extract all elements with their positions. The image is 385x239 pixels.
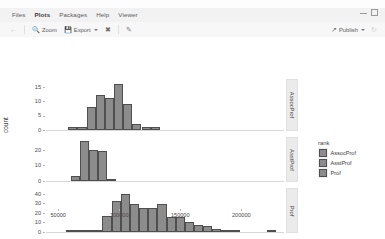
y-axis-tick-label: 5 — [38, 112, 41, 118]
legend-swatch — [319, 149, 327, 157]
legend: rank AssocProfAsstProfProf — [318, 140, 378, 178]
plots-toolbar: ← 🔍 Zoom 💾 Export ✖ ✎ ↗ Publish — [0, 22, 385, 38]
tab-help[interactable]: Help — [96, 9, 109, 21]
facet-strip-label: AsstProf — [289, 149, 295, 171]
y-axis-tick-mark — [43, 130, 45, 131]
panel-baseline — [46, 232, 284, 233]
y-axis-title: count — [2, 117, 9, 133]
x-axis-tick-label: 200000 — [232, 212, 251, 218]
y-axis-tick-mark — [43, 232, 45, 233]
panel-baseline — [46, 130, 284, 131]
x-axis-tick-label: 150000 — [171, 212, 190, 218]
toolbar-divider — [24, 25, 25, 34]
ggplot-faceted-histogram: count salary 051015AssocProf01020AsstPro… — [0, 37, 385, 239]
legend-label: AsstProf — [331, 160, 352, 166]
x-axis-tick-label: 100000 — [110, 212, 129, 218]
y-axis-tick-mark — [43, 101, 45, 102]
histogram-bar — [87, 107, 96, 130]
histogram-bar — [194, 225, 203, 232]
y-axis-tick-mark — [43, 194, 45, 195]
y-axis-tick-mark — [43, 150, 45, 151]
tab-plots[interactable]: Plots — [35, 9, 51, 21]
legend-swatch — [319, 159, 327, 167]
chevron-down-icon-publish — [361, 29, 365, 31]
y-axis-tick-label: 10 — [35, 162, 41, 168]
minimize-icon[interactable] — [360, 9, 367, 16]
plot-canvas: count salary 051015AssocProf01020AsstPro… — [0, 37, 385, 239]
histogram-bar — [89, 150, 98, 181]
publish-button[interactable]: ↗ Publish — [331, 27, 365, 33]
maximize-icon[interactable] — [371, 9, 378, 16]
histogram-bar — [105, 98, 114, 130]
tab-files[interactable]: Files — [12, 9, 26, 21]
publish-button-label: Publish — [339, 27, 358, 33]
zoom-button-label: Zoom — [42, 27, 57, 33]
histogram-bar — [185, 222, 194, 233]
y-axis-tick-label: 10 — [35, 219, 41, 225]
y-axis-tick-label: 30 — [35, 200, 41, 206]
y-axis-tick-label: 0 — [38, 127, 41, 133]
y-axis-tick-label: 15 — [35, 84, 41, 90]
legend-items: AssocProfAsstProfProf — [318, 148, 378, 178]
y-axis-tick-mark — [43, 203, 45, 204]
x-axis-tick-mark — [180, 209, 181, 211]
export-button[interactable]: 💾 Export — [64, 27, 98, 33]
y-axis-tick-label: 0 — [38, 178, 41, 184]
legend-label: Prof — [331, 170, 341, 176]
y-axis-tick-mark — [43, 222, 45, 223]
panel-baseline — [46, 181, 284, 182]
histogram-bar — [123, 104, 132, 130]
y-axis-tick-label: 0 — [38, 229, 41, 235]
histogram-bar — [96, 95, 105, 130]
histogram-bar — [114, 84, 123, 130]
y-axis-tick-mark — [43, 165, 45, 166]
legend-label: AssocProf — [331, 150, 357, 156]
x-axis-tick-label: 50000 — [50, 212, 66, 218]
facet-strip-label: AssocProf — [289, 92, 295, 118]
y-axis-tick-label: 10 — [35, 98, 41, 104]
facet-strip-assocprof: AssocProf — [286, 79, 298, 131]
legend-item: Prof — [318, 168, 378, 178]
export-button-label: Export — [74, 27, 91, 33]
x-axis-tick-mark — [58, 209, 59, 211]
legend-swatch — [319, 169, 327, 177]
x-axis: 50000100000150000200000 — [46, 209, 284, 221]
y-axis-tick-mark — [43, 181, 45, 182]
y-axis-tick-mark — [43, 213, 45, 214]
facet-strip-prof: Prof — [286, 188, 298, 233]
y-axis-tick-label: 20 — [35, 210, 41, 216]
legend-key — [318, 148, 328, 158]
legend-item: AsstProf — [318, 158, 378, 168]
facet-strip-asstprof: AsstProf — [286, 137, 298, 182]
legend-key — [318, 158, 328, 168]
chevron-down-icon — [94, 29, 98, 31]
histogram-bar — [98, 151, 107, 181]
toolbar-divider-2 — [118, 25, 119, 34]
legend-title: rank — [318, 140, 378, 146]
tab-viewer[interactable]: Viewer — [118, 9, 137, 21]
histogram-bars — [46, 137, 284, 181]
y-axis-tick-mark — [43, 87, 45, 88]
facet-strip-label: Prof — [289, 205, 295, 216]
tab-packages[interactable]: Packages — [59, 9, 87, 21]
zoom-button[interactable]: 🔍 Zoom — [32, 27, 57, 33]
legend-item: AssocProf — [318, 148, 378, 158]
y-axis-tick-mark — [43, 116, 45, 117]
window-controls — [360, 9, 378, 16]
x-axis-tick-mark — [241, 209, 242, 211]
facet-panel-assocprof — [46, 79, 284, 131]
y-axis-tick-label: 40 — [35, 191, 41, 197]
facet-panel-asstprof — [46, 137, 284, 182]
histogram-bar — [80, 141, 89, 181]
pane-tab-strip: Files Plots Packages Help Viewer — [12, 9, 138, 21]
y-axis-tick-label: 20 — [35, 147, 41, 153]
legend-key — [318, 168, 328, 178]
x-axis-tick-mark — [119, 209, 120, 211]
histogram-bars — [46, 79, 284, 130]
rstudio-plots-pane: Files Plots Packages Help Viewer ← 🔍 Zoo… — [0, 0, 385, 239]
